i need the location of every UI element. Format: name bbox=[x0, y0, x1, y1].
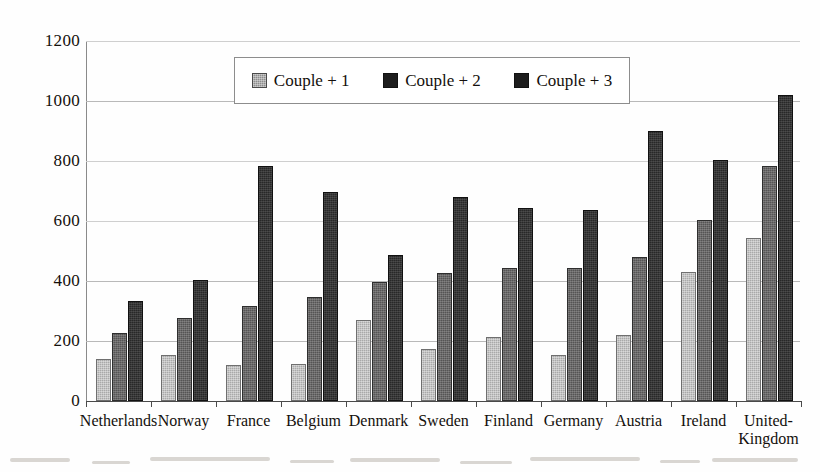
bar-group-unitedkingdom bbox=[746, 41, 795, 401]
scan-smudge bbox=[660, 460, 700, 463]
bar-3[interactable] bbox=[778, 95, 793, 401]
x-axis-tick-mark bbox=[736, 401, 737, 407]
x-axis-tick-mark bbox=[346, 401, 347, 407]
bar-2[interactable] bbox=[567, 268, 582, 402]
y-axis-tick-1200: 1200 bbox=[16, 31, 80, 51]
y-axis-tick-labels: 120010008006004002000 bbox=[0, 0, 80, 472]
y-axis-tick-0: 0 bbox=[16, 391, 80, 411]
bar-3[interactable] bbox=[453, 197, 468, 401]
legend-label-couple-1: Couple + 1 bbox=[274, 71, 350, 91]
legend-swatch-couple-3-icon bbox=[514, 73, 529, 88]
bar-2[interactable] bbox=[177, 318, 192, 401]
x-axis-tick-mark bbox=[541, 401, 542, 407]
bar-2[interactable] bbox=[437, 273, 452, 401]
y-axis-tick-400: 400 bbox=[16, 271, 80, 291]
bar-2[interactable] bbox=[502, 268, 517, 401]
bar-group-ireland bbox=[681, 41, 730, 401]
bar-3[interactable] bbox=[128, 301, 143, 402]
legend-label-couple-2: Couple + 2 bbox=[405, 71, 481, 91]
scan-smudge bbox=[712, 458, 798, 462]
bar-2[interactable] bbox=[112, 333, 127, 401]
scan-smudge bbox=[530, 457, 640, 461]
bar-1[interactable] bbox=[291, 364, 306, 402]
legend-swatch-couple-1-icon bbox=[252, 73, 267, 88]
scan-smudge bbox=[290, 460, 334, 463]
legend-item-couple-3[interactable]: Couple + 3 bbox=[514, 71, 612, 91]
bar-group-norway bbox=[161, 41, 210, 401]
x-axis-tick-mark bbox=[476, 401, 477, 407]
x-axis-tick-mark bbox=[801, 401, 802, 407]
x-axis-tick-mark bbox=[86, 401, 87, 407]
scan-smudge bbox=[92, 461, 130, 464]
bar-2[interactable] bbox=[242, 306, 257, 401]
bar-2[interactable] bbox=[632, 257, 647, 401]
bar-group-netherlands bbox=[96, 41, 145, 401]
scan-smudge bbox=[460, 461, 512, 464]
scan-smudge bbox=[150, 457, 270, 461]
bar-1[interactable] bbox=[356, 320, 371, 401]
x-axis-label-unitedkingdom: United- Kingdom bbox=[724, 412, 813, 448]
bar-3[interactable] bbox=[583, 210, 598, 401]
x-axis-tick-mark bbox=[281, 401, 282, 407]
bar-2[interactable] bbox=[307, 297, 322, 401]
bar-3[interactable] bbox=[713, 160, 728, 402]
bar-3[interactable] bbox=[648, 131, 663, 401]
bar-1[interactable] bbox=[746, 238, 761, 402]
bar-3[interactable] bbox=[193, 280, 208, 401]
bar-3[interactable] bbox=[518, 208, 533, 402]
bar-1[interactable] bbox=[616, 335, 631, 401]
bar-1[interactable] bbox=[681, 272, 696, 401]
bar-2[interactable] bbox=[697, 220, 712, 402]
bar-1[interactable] bbox=[226, 365, 241, 401]
bar-chart-figure: 120010008006004002000 NetherlandsNorwayF… bbox=[0, 0, 820, 472]
y-axis-tick-800: 800 bbox=[16, 151, 80, 171]
bar-2[interactable] bbox=[372, 282, 387, 401]
bar-1[interactable] bbox=[551, 355, 566, 401]
bar-1[interactable] bbox=[486, 337, 501, 402]
scan-smudge bbox=[350, 458, 440, 462]
y-axis-tick-200: 200 bbox=[16, 331, 80, 351]
scan-smudge bbox=[10, 458, 70, 462]
y-axis-tick-1000: 1000 bbox=[16, 91, 80, 111]
x-axis-tick-mark bbox=[411, 401, 412, 407]
x-axis-tick-mark bbox=[606, 401, 607, 407]
legend-item-couple-1[interactable]: Couple + 1 bbox=[252, 71, 350, 91]
bar-1[interactable] bbox=[421, 349, 436, 401]
x-axis-tick-mark bbox=[671, 401, 672, 407]
bar-3[interactable] bbox=[323, 192, 338, 401]
bar-1[interactable] bbox=[96, 359, 111, 401]
bar-2[interactable] bbox=[762, 166, 777, 402]
x-axis-line bbox=[86, 401, 801, 402]
chart-legend: Couple + 1 Couple + 2 Couple + 3 bbox=[234, 57, 630, 104]
legend-label-couple-3: Couple + 3 bbox=[536, 71, 612, 91]
bar-1[interactable] bbox=[161, 355, 176, 402]
bar-3[interactable] bbox=[388, 255, 403, 401]
page-scan-artifact bbox=[0, 452, 820, 472]
bar-3[interactable] bbox=[258, 166, 273, 401]
x-axis-tick-mark bbox=[151, 401, 152, 407]
legend-swatch-couple-2-icon bbox=[383, 73, 398, 88]
legend-item-couple-2[interactable]: Couple + 2 bbox=[383, 71, 481, 91]
x-axis-tick-mark bbox=[216, 401, 217, 407]
y-axis-tick-600: 600 bbox=[16, 211, 80, 231]
